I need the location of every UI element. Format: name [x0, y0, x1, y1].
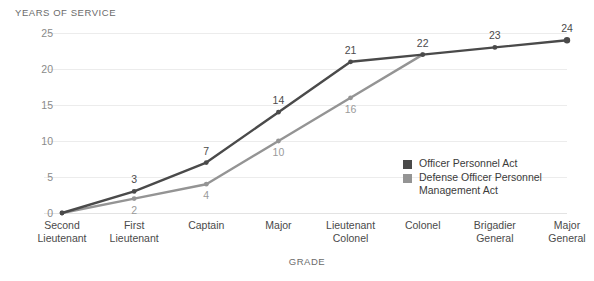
- x-axis-tick-label-line: Colonel: [405, 219, 441, 232]
- gridline: [44, 213, 567, 214]
- years-of-service-line-chart: YEARS OF SERVICE 0510152025 371421222324…: [0, 0, 594, 281]
- y-axis-tick-label: 0: [47, 207, 53, 219]
- x-axis-tick-label-line: Lieutenant: [110, 232, 159, 245]
- x-axis-tick-label-line: General: [474, 232, 516, 245]
- x-axis-title: GRADE: [0, 256, 594, 267]
- data-point-marker: [204, 182, 209, 187]
- x-axis-tick-label-line: Second: [37, 219, 86, 232]
- data-point-marker: [132, 189, 137, 194]
- x-axis-tick-label-line: Captain: [188, 219, 224, 232]
- legend-label: Officer Personnel Act: [419, 157, 517, 170]
- x-axis-tick-label: Captain: [188, 219, 224, 232]
- x-axis-tick-label-line: Brigadier: [474, 219, 516, 232]
- data-point-marker: [276, 139, 281, 144]
- x-axis-tick-label-line: Major: [265, 219, 291, 232]
- data-point-marker: [564, 37, 570, 43]
- x-axis-tick-label-line: Colonel: [326, 232, 375, 245]
- x-axis-tick-label-line: First: [110, 219, 159, 232]
- data-point-marker: [420, 52, 425, 57]
- legend-swatch-icon: [403, 174, 412, 183]
- x-axis-tick-label: Colonel: [405, 219, 441, 232]
- legend-swatch-icon: [403, 160, 412, 169]
- data-point-marker: [60, 211, 65, 216]
- data-point-marker: [204, 160, 209, 165]
- data-point-marker: [276, 110, 281, 115]
- x-axis-tick-label: SecondLieutenant: [37, 219, 86, 244]
- x-axis-tick-label: Major: [265, 219, 291, 232]
- x-axis-tick-label-line: Lieutenant: [326, 219, 375, 232]
- x-axis-tick-label: LieutenantColonel: [326, 219, 375, 244]
- x-axis-tick-label: BrigadierGeneral: [474, 219, 516, 244]
- x-axis-tick-label-line: Lieutenant: [37, 232, 86, 245]
- legend-item[interactable]: Defense Officer Personnel Management Act: [403, 171, 588, 197]
- y-axis-tick-label: 25: [41, 27, 53, 39]
- data-point-marker: [348, 59, 353, 64]
- series-line: [62, 55, 423, 213]
- data-point-marker: [132, 196, 137, 201]
- chart-legend: Officer Personnel ActDefense Officer Per…: [403, 157, 588, 198]
- x-axis-tick-label: MajorGeneral: [548, 219, 585, 244]
- x-axis-tick-label: FirstLieutenant: [110, 219, 159, 244]
- legend-label: Defense Officer Personnel Management Act: [419, 171, 588, 197]
- legend-item[interactable]: Officer Personnel Act: [403, 157, 588, 170]
- y-axis-tick-label: 5: [47, 171, 53, 183]
- y-axis-tick-label: 10: [41, 135, 53, 147]
- x-axis-tick-label-line: General: [548, 232, 585, 245]
- data-point-marker: [492, 45, 497, 50]
- y-axis-tick-label: 15: [41, 99, 53, 111]
- data-point-marker: [348, 95, 353, 100]
- y-axis-tick-label: 20: [41, 63, 53, 75]
- y-axis-title: YEARS OF SERVICE: [15, 7, 116, 18]
- x-axis-tick-label-line: Major: [548, 219, 585, 232]
